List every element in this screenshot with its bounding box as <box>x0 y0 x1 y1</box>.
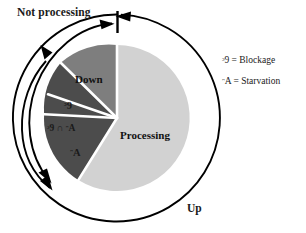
slice-label-blockage-and-starvation: ᵓ9 ∩ ᵔA <box>47 124 75 134</box>
not-processing-arrowhead-top <box>100 19 115 29</box>
slice-label-starvation: ᵔA <box>70 148 81 159</box>
legend-item-starvation: ᵔA = Starvation <box>222 76 280 86</box>
pie-chart-figure <box>0 0 306 233</box>
slice-label-blockage: ᵓ9 <box>64 101 72 112</box>
not-processing-outer-arrowhead-top <box>41 45 53 60</box>
not-processing-label: Not processing <box>17 7 91 19</box>
legend-item-blockage: ᵓ9 = Blockage <box>222 55 280 65</box>
legend: ᵓ9 = Blockage ᵔA = Starvation <box>222 55 280 98</box>
up-label: Up <box>187 203 202 215</box>
slice-label-down: Down <box>75 74 103 85</box>
slice-label-processing: Processing <box>120 130 170 141</box>
